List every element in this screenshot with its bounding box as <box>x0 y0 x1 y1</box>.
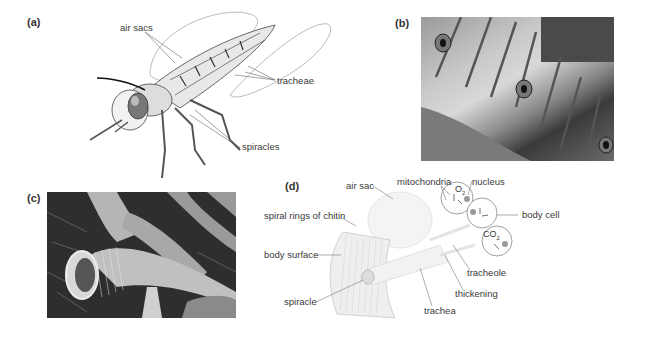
callout-nucleus: nucleus <box>472 176 505 187</box>
callout-trachea: trachea <box>424 305 456 316</box>
callout-spiral-rings-of-chitin: spiral rings of chitin <box>264 210 345 221</box>
callout-tracheole: tracheole <box>467 267 506 278</box>
callout-body-cell: body cell <box>522 209 560 220</box>
callout-mitochondria: mitochondria <box>397 176 451 187</box>
callout-air-sac: air sac <box>346 180 374 191</box>
callout-body-surface: body surface <box>264 249 318 260</box>
tracheal-system-diagram <box>0 0 648 342</box>
o2-label: O2 <box>455 184 465 196</box>
callout-spiracle: spiracle <box>284 296 317 307</box>
co2-label: CO2 <box>483 229 500 241</box>
callout-thickening: thickening <box>455 288 498 299</box>
